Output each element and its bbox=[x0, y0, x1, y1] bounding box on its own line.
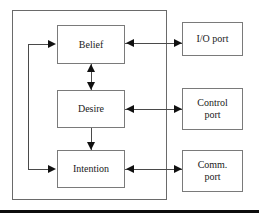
node-desire-label: Desire bbox=[78, 103, 104, 115]
belief-io-arrowhead-right bbox=[174, 39, 182, 47]
intention-comm-arrowhead-left bbox=[126, 165, 134, 173]
port-comm-label-line1: Comm. bbox=[198, 159, 228, 170]
feedback-rail-to-belief-arrowhead bbox=[48, 40, 56, 48]
desire-control-arrowhead-right bbox=[174, 105, 182, 113]
port-comm-label: Comm. port bbox=[198, 159, 228, 184]
feedback-rail-to-intention-arrowhead bbox=[48, 165, 56, 173]
belief-desire-arrowhead-down bbox=[87, 82, 95, 90]
feedback-rail-vertical bbox=[28, 44, 29, 169]
bdi-architecture-figure: Belief Desire Intention I/O port Control… bbox=[0, 0, 259, 218]
node-belief-label: Belief bbox=[79, 39, 103, 51]
belief-io-arrowhead-left bbox=[126, 39, 134, 47]
bottom-divider-rule bbox=[0, 210, 259, 213]
desire-intention-arrowhead-down bbox=[87, 142, 95, 150]
port-comm[interactable]: Comm. port bbox=[182, 150, 243, 192]
port-io-label: I/O port bbox=[197, 33, 229, 46]
node-intention[interactable]: Intention bbox=[57, 150, 125, 188]
port-control-label-line2: port bbox=[204, 109, 220, 120]
port-control-label: Control port bbox=[197, 97, 228, 122]
port-control-label-line1: Control bbox=[197, 97, 228, 108]
port-control[interactable]: Control port bbox=[182, 88, 243, 130]
feedback-rail-to-intention-line bbox=[28, 169, 50, 170]
node-belief[interactable]: Belief bbox=[57, 25, 125, 64]
belief-desire-arrowhead-up bbox=[87, 64, 95, 72]
port-io[interactable]: I/O port bbox=[182, 22, 243, 56]
feedback-rail-to-belief-line bbox=[28, 44, 50, 45]
port-comm-label-line2: port bbox=[204, 171, 220, 182]
desire-control-arrowhead-left bbox=[126, 105, 134, 113]
node-desire[interactable]: Desire bbox=[57, 90, 125, 128]
node-intention-label: Intention bbox=[73, 163, 109, 175]
intention-comm-arrowhead-right bbox=[174, 165, 182, 173]
